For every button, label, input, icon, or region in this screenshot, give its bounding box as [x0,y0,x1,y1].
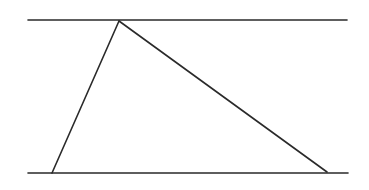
diagram-canvas [0,0,369,190]
triangle-left-side [52,21,119,173]
triangle-between-parallel-lines-drawing [0,0,369,190]
triangle-right-side [119,21,327,172]
